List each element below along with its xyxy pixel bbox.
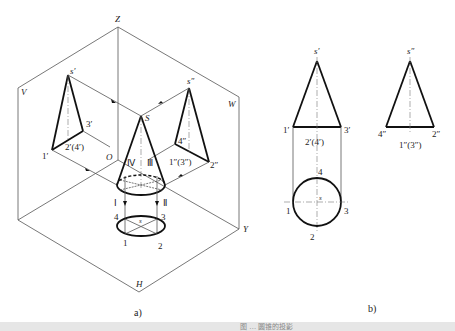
side-view xyxy=(386,57,434,133)
axis-z-label: Z xyxy=(115,14,121,24)
h-p1-label: 1 xyxy=(123,238,128,248)
projector-lines xyxy=(52,75,209,185)
caption-b: b) xyxy=(368,303,376,315)
b-top-center: s xyxy=(319,194,322,202)
top-view xyxy=(284,178,350,226)
b-front-apex: s′ xyxy=(314,46,321,56)
b-top-p3: 3 xyxy=(344,206,349,216)
b-side-left: 4″ xyxy=(378,129,387,139)
b-top-p1: 1 xyxy=(286,206,291,216)
apex-s-label: S xyxy=(145,113,150,123)
h-p3-label: 3 xyxy=(161,212,166,222)
b-side-apex: s″ xyxy=(407,46,415,56)
footer-caption: 图 … 圆锥的投影 xyxy=(240,321,293,331)
axis-y-label: Y xyxy=(243,224,249,234)
w-p13-label: 1″(3″) xyxy=(169,157,192,167)
w-p2-label: 2″ xyxy=(210,160,219,170)
b-top-p4: 4 xyxy=(318,167,323,177)
b-front-right: 3′ xyxy=(344,125,351,135)
b-front-mid: 2′(4′) xyxy=(305,137,324,147)
footer-strip: 图 … 圆锥的投影 xyxy=(0,322,455,331)
caption-a: a) xyxy=(134,307,142,319)
v-apex-label: s′ xyxy=(70,66,77,76)
cone-projection-diagram: Z V W Y H O S s′ 1′ 3′ 2′(4′) s″ 4″ 2″ 1… xyxy=(0,0,455,331)
plane-w-label: W xyxy=(228,99,237,109)
w-apex-label: s″ xyxy=(187,76,195,86)
h-p4-label: 4 xyxy=(114,212,119,222)
w-projection xyxy=(148,88,209,162)
b-front-left: 1′ xyxy=(283,125,290,135)
cone-point-ii: Ⅱ xyxy=(163,198,167,208)
plane-v-label: V xyxy=(21,87,28,97)
plane-h-label: H xyxy=(135,279,143,289)
w-p4-label: 4″ xyxy=(178,136,187,146)
v-projection xyxy=(52,75,110,150)
b-side-mid: 1″(3″) xyxy=(399,140,422,150)
v-p1-label: 1′ xyxy=(42,151,49,161)
h-center-label: s xyxy=(139,217,142,225)
v-p24-label: 2′(4′) xyxy=(65,142,84,152)
b-side-right: 2″ xyxy=(432,129,441,139)
h-p2-label: 2 xyxy=(158,241,163,251)
b-top-p2: 2 xyxy=(310,232,315,242)
origin-label: O xyxy=(106,152,113,162)
v-p3-label: 3′ xyxy=(86,119,93,129)
cone-point-iv: Ⅳ xyxy=(127,158,136,168)
cone-point-i: Ⅰ xyxy=(114,198,117,208)
cone-point-iii: Ⅲ xyxy=(147,158,153,168)
